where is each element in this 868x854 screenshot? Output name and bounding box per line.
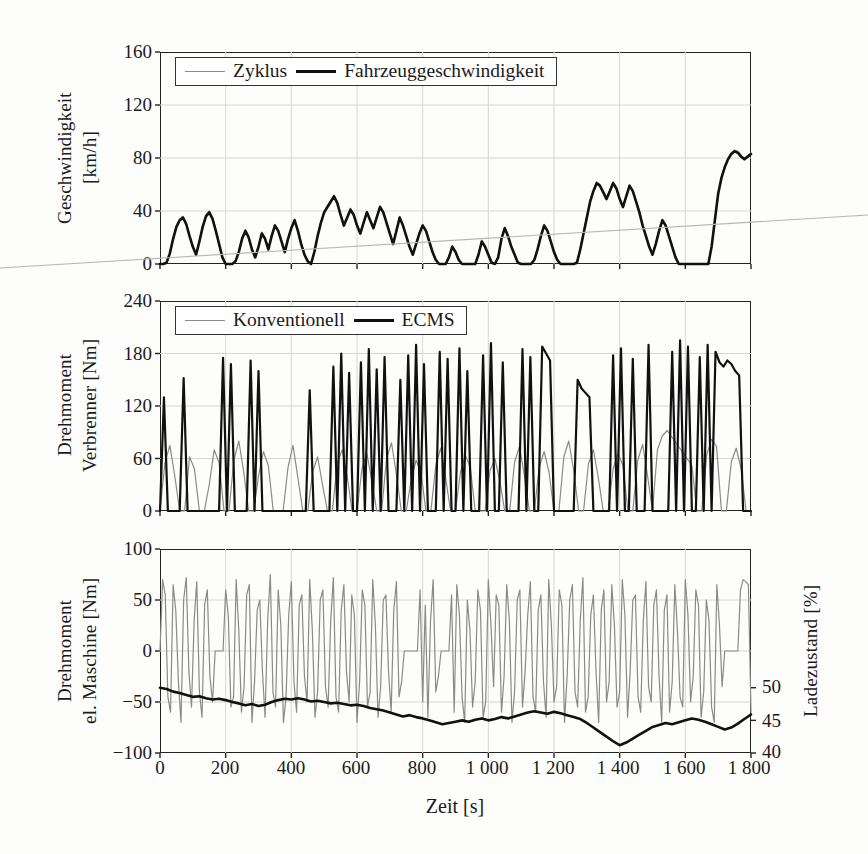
legend-entry-ecms: ECMS	[354, 309, 455, 331]
xtick-600: 600	[321, 757, 391, 779]
xtick-400: 400	[256, 757, 326, 779]
xtick-1800: 1 800	[714, 757, 784, 779]
xtick-1200: 1 200	[518, 757, 588, 779]
legend-swatch-black-line	[296, 70, 336, 73]
xtick-1400: 1 400	[583, 757, 653, 779]
legend-label-zyklus: Zyklus	[233, 60, 287, 82]
legend-swatch-gray-line	[185, 71, 225, 72]
xtick-0: 0	[125, 757, 195, 779]
legend-swatch-gray-line	[185, 320, 225, 321]
legend-entry-zyklus: Zyklus	[185, 60, 287, 82]
xtick-1000: 1 000	[452, 757, 522, 779]
panel-speed-legend: Zyklus Fahrzeuggeschwindigkeit	[175, 57, 557, 86]
legend-entry-konventionell: Konventionell	[185, 309, 345, 331]
x-axis-label: Zeit [s]	[355, 795, 555, 818]
legend-entry-fahrzeuggeschwindigkeit: Fahrzeuggeschwindigkeit	[296, 60, 544, 82]
legend-swatch-black-line	[354, 319, 394, 322]
xtick-1600: 1 600	[649, 757, 719, 779]
panel-emachine-soc-plot	[0, 0, 868, 854]
xtick-200: 200	[190, 757, 260, 779]
legend-label-ecms: ECMS	[402, 309, 455, 331]
legend-label-konventionell: Konventionell	[233, 309, 345, 331]
panel-engine-torque-legend: Konventionell ECMS	[175, 306, 467, 335]
figure-root: Geschwindigkeit [km/h] 160 120 80 40 0 Z…	[0, 0, 868, 854]
legend-label-fahrzeuggeschwindigkeit: Fahrzeuggeschwindigkeit	[344, 60, 544, 82]
xtick-800: 800	[387, 757, 457, 779]
